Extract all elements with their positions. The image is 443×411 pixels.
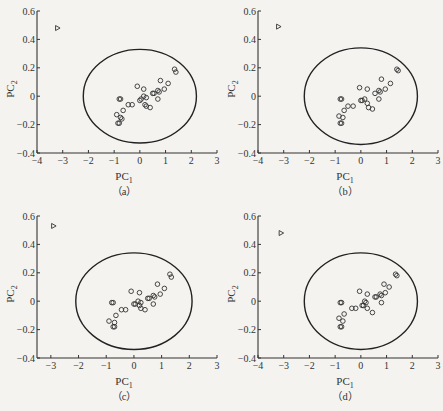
y-tick-label: 0 xyxy=(30,91,35,102)
x-axis-label: PC1 xyxy=(115,375,132,390)
data-point xyxy=(172,67,177,72)
data-point xyxy=(158,78,163,83)
outlier-triangle-icon xyxy=(52,223,57,228)
x-tick-label: 3 xyxy=(215,360,220,371)
x-axis-label: PC1 xyxy=(336,375,353,390)
x-tick-label: −3 xyxy=(57,155,68,166)
panel-caption: （b） xyxy=(332,186,357,197)
panel-caption: （d） xyxy=(332,391,357,402)
x-tick-label: −2 xyxy=(73,360,84,371)
data-points xyxy=(107,272,174,329)
data-point xyxy=(382,282,387,287)
y-tick-label: 0.2 xyxy=(244,62,257,73)
data-point xyxy=(137,290,142,295)
y-tick-label: −0.2 xyxy=(17,324,35,335)
panel-caption: （a） xyxy=(112,186,137,197)
data-point xyxy=(135,84,140,89)
x-tick-label: −3 xyxy=(278,155,289,166)
y-tick-label: 0.6 xyxy=(23,211,36,222)
data-points xyxy=(337,67,401,126)
confidence-ellipse xyxy=(304,48,417,145)
data-point xyxy=(342,312,347,317)
x-tick-label: 1 xyxy=(163,155,168,166)
data-point xyxy=(351,104,356,109)
x-tick-label: 3 xyxy=(436,155,441,166)
y-tick-label: 0.4 xyxy=(244,239,257,250)
data-point xyxy=(388,81,393,86)
scatter-panel-a: −4−3−2−10123−0.4−0.200.20.40.6 PC1 PC2 （… xyxy=(0,0,222,206)
y-tick-label: 0.2 xyxy=(244,267,257,278)
panel-caption: （c） xyxy=(112,391,137,402)
axes: −3−2−10123−0.4−0.200.20.40.6 xyxy=(17,211,220,372)
data-point xyxy=(383,87,388,92)
x-tick-label: 2 xyxy=(410,360,415,371)
x-tick-label: 3 xyxy=(215,155,220,166)
y-tick-label: −0.4 xyxy=(238,353,256,364)
y-tick-label: 0.6 xyxy=(244,6,257,17)
data-point xyxy=(365,292,370,297)
x-axis-label: PC1 xyxy=(336,170,353,185)
confidence-ellipse xyxy=(304,253,417,350)
x-tick-label: 2 xyxy=(410,155,415,166)
data-point xyxy=(341,319,346,324)
x-tick-label: 1 xyxy=(384,155,389,166)
x-tick-label: −2 xyxy=(83,155,94,166)
x-tick-label: 2 xyxy=(187,360,192,371)
data-point xyxy=(151,302,156,307)
data-point xyxy=(342,108,347,113)
y-tick-label: −0.4 xyxy=(17,353,35,364)
x-tick-label: 1 xyxy=(159,360,164,371)
data-point xyxy=(365,87,370,92)
scatter-panel-d: −4−3−2−10123−0.4−0.200.20.40.6 PC1 PC2 （… xyxy=(221,205,443,411)
data-point xyxy=(357,85,362,90)
scatter-plot: −4−3−2−10123−0.4−0.200.20.40.6 PC1 PC2 （… xyxy=(221,205,443,411)
y-axis-label: PC2 xyxy=(225,285,240,302)
scatter-plot: −3−2−10123−0.4−0.200.20.40.6 PC1 PC2 （c） xyxy=(0,205,222,411)
x-axis-label: PC1 xyxy=(115,170,132,185)
y-axis-label: PC2 xyxy=(4,80,19,97)
data-point xyxy=(107,319,112,324)
outlier-triangle-icon xyxy=(56,26,61,31)
data-point xyxy=(156,97,161,102)
x-tick-label: 1 xyxy=(384,360,389,371)
data-point xyxy=(174,70,179,75)
axes: −4−3−2−10123−0.4−0.200.20.40.6 xyxy=(238,6,441,167)
y-tick-label: −0.2 xyxy=(238,324,256,335)
y-tick-label: −0.2 xyxy=(238,119,256,130)
data-point xyxy=(155,282,160,287)
x-tick-label: −2 xyxy=(304,155,315,166)
y-tick-label: 0.6 xyxy=(244,211,257,222)
scatter-plot: −4−3−2−10123−0.4−0.200.20.40.6 PC1 PC2 （… xyxy=(0,0,222,206)
y-tick-label: 0 xyxy=(251,91,256,102)
data-point xyxy=(370,310,375,315)
x-tick-label: −1 xyxy=(330,155,341,166)
data-point xyxy=(377,97,382,102)
outlier-triangle-icon xyxy=(279,231,284,236)
x-tick-label: −3 xyxy=(46,360,57,371)
data-point xyxy=(365,306,370,311)
x-tick-label: −1 xyxy=(101,360,112,371)
y-tick-label: 0.2 xyxy=(23,267,36,278)
y-tick-label: 0.4 xyxy=(23,34,36,45)
y-tick-label: 0.2 xyxy=(23,62,36,73)
x-tick-label: 2 xyxy=(189,155,194,166)
confidence-ellipse xyxy=(83,49,196,143)
x-tick-label: −2 xyxy=(304,360,315,371)
data-point xyxy=(162,87,167,92)
x-tick-label: −1 xyxy=(330,360,341,371)
data-point xyxy=(383,290,388,295)
data-point xyxy=(114,313,119,318)
x-tick-label: 0 xyxy=(131,360,136,371)
x-tick-label: 0 xyxy=(358,360,363,371)
data-point xyxy=(162,286,167,291)
y-axis-label: PC2 xyxy=(4,285,19,302)
x-tick-label: −1 xyxy=(109,155,120,166)
data-point xyxy=(379,77,384,82)
data-point xyxy=(121,108,126,113)
data-point xyxy=(158,292,163,297)
scatter-plot: −4−3−2−10123−0.4−0.200.20.40.6 PC1 PC2 （… xyxy=(221,0,443,206)
outlier-triangle-icon xyxy=(277,24,282,29)
y-axis-label: PC2 xyxy=(225,80,240,97)
scatter-panel-b: −4−3−2−10123−0.4−0.200.20.40.6 PC1 PC2 （… xyxy=(221,0,443,206)
x-tick-label: 0 xyxy=(137,155,142,166)
